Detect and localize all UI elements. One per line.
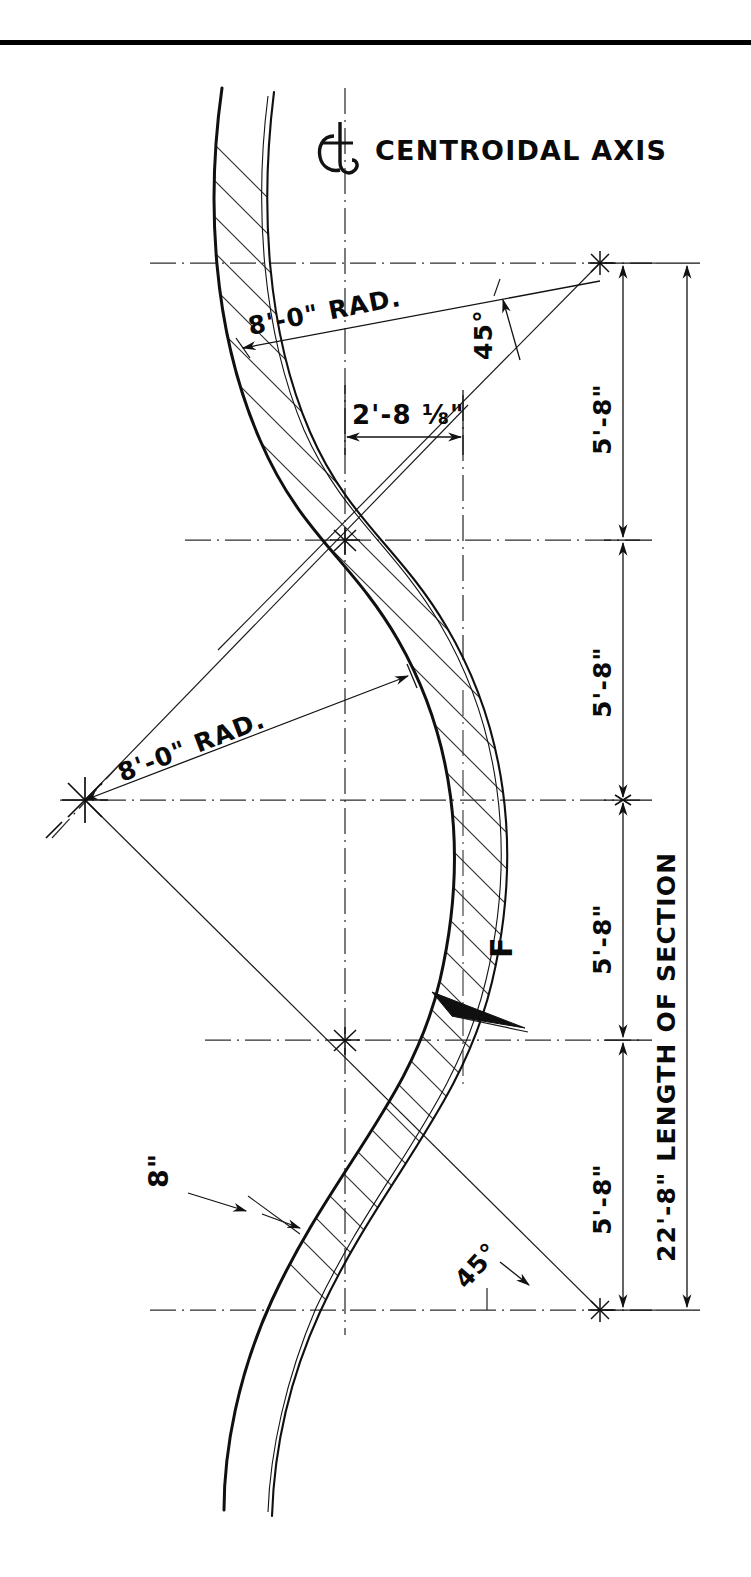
construction-ray-mid-upper xyxy=(85,405,468,800)
thickness-label: 8" xyxy=(143,1153,174,1188)
engineering-drawing-canvas: 8'-0" RAD. 8'-0" RAD. 2'-8 ⅛" 45° 45° 8"… xyxy=(0,0,751,1577)
offset-dimension-label: 2'-8 ⅛" xyxy=(352,400,465,430)
thickness-leader-inner xyxy=(262,1214,300,1228)
inflection-mark-lower xyxy=(330,1027,360,1055)
angle-label-top: 45° xyxy=(469,309,498,360)
dim-segment-4-label: 5'-8" xyxy=(588,1163,617,1235)
flag-arrow-marker xyxy=(432,992,525,1028)
centerline-symbol-icon xyxy=(320,122,358,173)
thickness-leader-outer xyxy=(188,1193,246,1211)
thickness-ext-line xyxy=(248,1196,300,1234)
flag-label: F xyxy=(484,936,519,958)
section-hatching xyxy=(130,60,600,1574)
centroidal-axis-title: CENTROIDAL AXIS xyxy=(375,135,667,166)
drawing-sheet: 8'-0" RAD. 8'-0" RAD. 2'-8 ⅛" 45° 45° 8"… xyxy=(0,0,751,1577)
dim-segment-1-label: 5'-8" xyxy=(588,383,617,455)
dimension-chain: 5'-8" 5'-8" 5'-8" 5'-8" xyxy=(588,263,652,1310)
construction-ray-lower-45 xyxy=(85,800,600,1310)
sheet-top-border xyxy=(0,40,751,45)
angle-leader-bottom xyxy=(500,1262,529,1285)
angle-label-bottom: 45° xyxy=(449,1237,505,1294)
angle-leader-top xyxy=(503,300,520,360)
overall-dimension-label: 22'-8" LENGTH OF SECTION xyxy=(652,852,681,1262)
arc-center-mark-left xyxy=(46,777,108,838)
dim-segment-2-label: 5'-8" xyxy=(588,646,617,718)
overall-dimension: 22'-8" LENGTH OF SECTION xyxy=(652,263,700,1310)
angle-tick-top xyxy=(494,279,500,296)
inflection-mark-upper xyxy=(330,527,360,555)
dim-segment-3-label: 5'-8" xyxy=(588,903,617,975)
